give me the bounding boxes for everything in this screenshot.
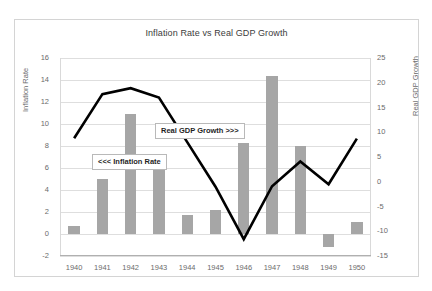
x-axis-tick-1941: 1941 xyxy=(88,263,116,272)
y-axis-right-tick-25: 25 xyxy=(377,54,403,62)
y-axis-left-tick-16: 16 xyxy=(23,54,49,62)
y-axis-right-tick-20: 20 xyxy=(377,79,403,87)
y-axis-left-tick-14: 14 xyxy=(23,76,49,84)
inflation-rate-callout: <<< Inflation Rate xyxy=(92,154,167,170)
y-axis-left-tick-6: 6 xyxy=(23,164,49,172)
x-axis-tick-1950: 1950 xyxy=(343,263,371,272)
y-axis-left-tick-0: 0 xyxy=(23,230,49,238)
y-axis-right-tick-5: 5 xyxy=(377,153,403,161)
y-axis-right-tick-0: 0 xyxy=(377,178,403,186)
y-axis-left-tick-4: 4 xyxy=(23,186,49,194)
chart-frame: Inflation Rate vs Real GDP Growth Inflat… xyxy=(14,19,419,277)
real-gdp-growth-callout: Real GDP Growth >>> xyxy=(155,123,245,139)
y-axis-left-tick-10: 10 xyxy=(23,120,49,128)
chart-title: Inflation Rate vs Real GDP Growth xyxy=(15,28,418,38)
x-axis-tick-1948: 1948 xyxy=(286,263,314,272)
gridline xyxy=(60,256,371,257)
y-axis-left-tick-12: 12 xyxy=(23,98,49,106)
y-axis-right-tick-15: 15 xyxy=(377,104,403,112)
y-axis-right-tick-10: 10 xyxy=(377,128,403,136)
y-axis-right-tick--5: -5 xyxy=(377,203,403,211)
x-axis-tick-1946: 1946 xyxy=(230,263,258,272)
x-axis-tick-1947: 1947 xyxy=(258,263,286,272)
y-axis-left-tick--2: -2 xyxy=(23,252,49,260)
x-axis-tick-1943: 1943 xyxy=(145,263,173,272)
x-axis-tick-1949: 1949 xyxy=(314,263,342,272)
y-axis-right-label: Real GDP Growth xyxy=(411,56,420,116)
screenshot-root: Inflation Rate vs Real GDP Growth Inflat… xyxy=(0,0,432,291)
y-axis-right-tick--10: -10 xyxy=(377,227,403,235)
x-axis-tick-1944: 1944 xyxy=(173,263,201,272)
y-axis-right-tick--15: -15 xyxy=(377,252,403,260)
y-axis-left-tick-8: 8 xyxy=(23,142,49,150)
x-axis-tick-1940: 1940 xyxy=(60,263,88,272)
y-axis-left-tick-2: 2 xyxy=(23,208,49,216)
x-axis-tick-1942: 1942 xyxy=(117,263,145,272)
x-axis-tick-1945: 1945 xyxy=(201,263,229,272)
